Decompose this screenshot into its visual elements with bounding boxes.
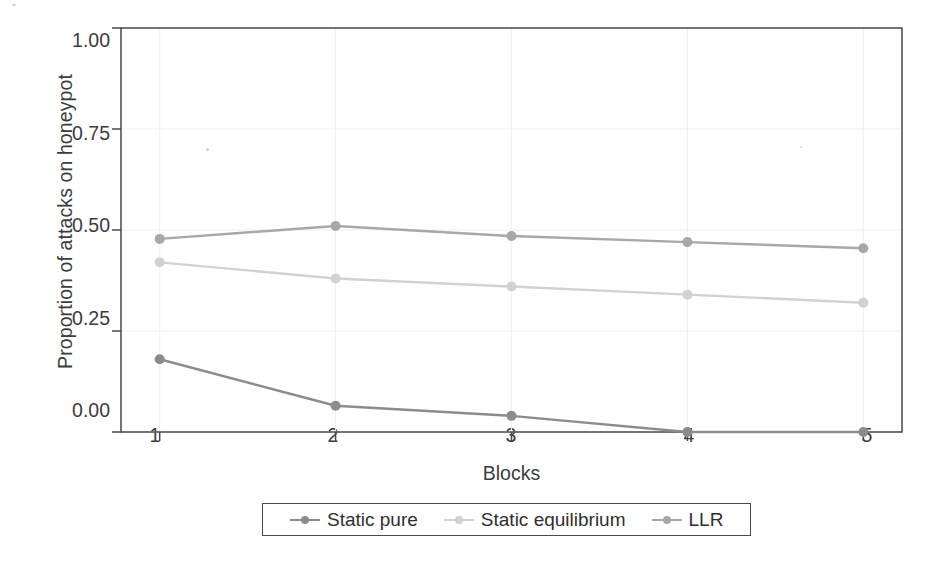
data-point [155, 257, 165, 267]
scan-speck [206, 148, 209, 151]
legend-marker-icon [652, 514, 682, 526]
scan-speck [800, 146, 802, 148]
data-point [858, 427, 868, 437]
data-point [682, 427, 692, 437]
legend-entry[interactable]: Static pure [290, 509, 418, 531]
data-point [858, 243, 868, 253]
legend-label: Static pure [327, 509, 418, 531]
chart-figure: Proportion of attacks on honeypot 1.00 0… [0, 0, 926, 566]
legend-marker-icon [444, 514, 474, 526]
data-point [155, 234, 165, 244]
legend-dot [455, 516, 463, 524]
data-point [331, 401, 341, 411]
gridlines [121, 28, 902, 432]
legend-label: Static equilibrium [481, 509, 626, 531]
scan-speck [12, 4, 16, 6]
data-point [682, 237, 692, 247]
legend-dot [663, 516, 671, 524]
data-point [155, 354, 165, 364]
data-point [331, 273, 341, 283]
legend-marker-icon [290, 514, 320, 526]
legend-dot [301, 516, 309, 524]
data-point [507, 282, 517, 292]
data-point [331, 221, 341, 231]
legend-entry[interactable]: Static equilibrium [444, 509, 626, 531]
data-point [858, 298, 868, 308]
legend-label: LLR [689, 509, 724, 531]
data-point [507, 411, 517, 421]
data-point [682, 290, 692, 300]
data-point [507, 231, 517, 241]
plot-area [0, 0, 926, 566]
legend-entry[interactable]: LLR [652, 509, 724, 531]
chart-legend: Static pure Static equilibrium LLR [262, 503, 751, 536]
